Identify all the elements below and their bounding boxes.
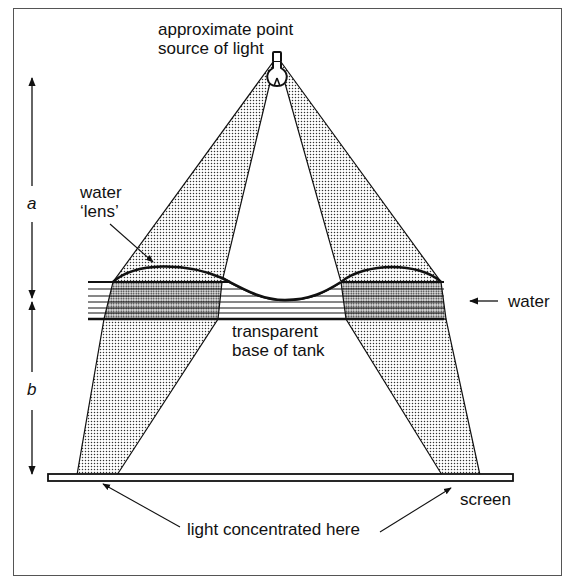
lens-label-line2: ‘lens’: [80, 202, 119, 221]
concentrated-label: light concentrated here: [187, 520, 360, 539]
base-label-line1: transparent: [232, 322, 318, 341]
screen-label: screen: [460, 490, 511, 509]
left-light-beam: [77, 62, 275, 475]
distance-label-b: b: [27, 380, 36, 399]
concentrated-pointer-left: [103, 484, 180, 527]
screen: [48, 474, 513, 481]
concentrated-pointer-right: [380, 488, 451, 532]
source-label-line1: approximate point: [158, 20, 293, 39]
light-bulb-icon: [267, 52, 286, 86]
water-label: water: [508, 292, 550, 311]
distance-label-a: a: [27, 194, 36, 213]
lens-label-line1: water: [80, 183, 122, 202]
base-label-line2: base of tank: [232, 341, 325, 360]
source-label-line2: source of light: [158, 39, 264, 58]
